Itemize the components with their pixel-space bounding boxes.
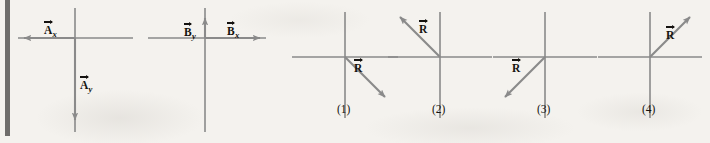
choice-4-resultant-label: R	[666, 30, 674, 42]
vector-addition-figure: Ax Ay By Bx R (1)	[0, 0, 710, 143]
choice-4-number: (4)	[642, 104, 655, 116]
choice-4-graphics	[0, 0, 710, 143]
